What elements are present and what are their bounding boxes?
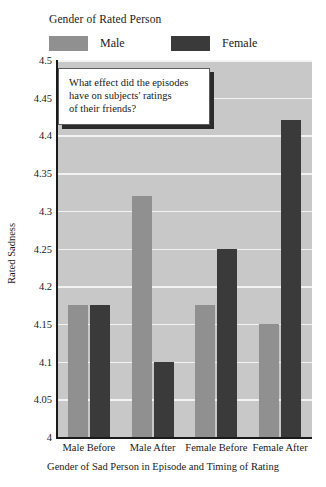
x-axis-line (56, 437, 312, 439)
callout-box: What effect did the episodes have on sub… (58, 68, 210, 125)
legend-label-female: Female (222, 36, 257, 51)
legend-entry-male: Male (49, 34, 125, 52)
bar-male-before-male (68, 305, 88, 437)
y-axis-tick-label: 4.35 (4, 168, 56, 179)
legend-title: Gender of Rated Person (49, 13, 161, 25)
bar-female-before-female (217, 249, 237, 438)
legend-swatch-male-icon (49, 36, 88, 51)
bar-female-before-male (195, 305, 215, 437)
bar-female-after-male (259, 324, 279, 437)
y-axis-tick-label: 4.5 (4, 55, 56, 66)
x-axis-tick-label: Female After (253, 442, 308, 453)
bar-male-after-male (132, 196, 152, 437)
y-axis-tick-label: 4.15 (4, 318, 56, 329)
bar-male-before-female (90, 305, 110, 437)
x-axis-tick-label: Male After (130, 442, 176, 453)
chart-legend: Male Female (49, 34, 299, 52)
bar-male-after-female (154, 362, 174, 437)
callout-text: What effect did the episodes have on sub… (69, 76, 200, 116)
y-axis-tick-label: 4.4 (4, 130, 56, 141)
legend-entry-female: Female (171, 34, 257, 52)
y-axis-tick-label: 4.05 (4, 394, 56, 405)
x-axis-title: Gender of Sad Person in Episode and Timi… (0, 461, 326, 472)
x-axis-tick-label: Female Before (185, 442, 247, 453)
y-axis-tick-label: 4.45 (4, 92, 56, 103)
y-axis-tick-label: 4.1 (4, 356, 56, 367)
legend-swatch-female-icon (171, 36, 210, 51)
x-axis-tick-labels: Male BeforeMale AfterFemale BeforeFemale… (57, 442, 312, 458)
bar-female-after-female (281, 120, 301, 437)
legend-label-male: Male (100, 36, 125, 51)
x-axis-tick-label: Male Before (62, 442, 115, 453)
y-axis-tick-label: 4 (4, 432, 56, 443)
y-axis-title: Rated Sadness (6, 199, 17, 309)
